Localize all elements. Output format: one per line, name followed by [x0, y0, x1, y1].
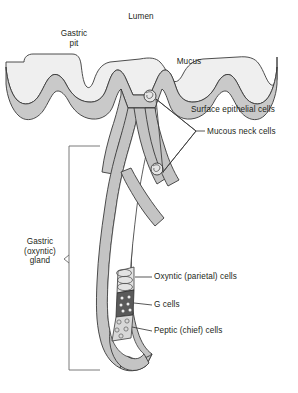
label-surface-epithelial-cells: Surface epithelial cells [191, 105, 295, 115]
label-oxyntic-parietal-cells: Oxyntic (parietal) cells [154, 272, 274, 282]
label-mucous-neck-cells: Mucous neck cells [207, 127, 297, 137]
mucous-neck-cell-marker-lower [151, 163, 163, 175]
label-mucus: Mucus [166, 57, 212, 67]
mucous-neck-cell-marker-upper [144, 90, 156, 102]
label-g-cells: G cells [154, 300, 234, 310]
oxyntic-cells-marker [117, 267, 135, 293]
label-peptic-chief-cells: Peptic (chief) cells [154, 326, 274, 336]
label-gastric-oxyntic-gland: Gastric (oxyntic) gland [12, 237, 68, 266]
label-gastric-pit: Gastric pit [46, 29, 102, 48]
g-cells-marker [116, 290, 134, 317]
label-lumen: Lumen [106, 12, 176, 22]
gastric-gland-bracket [64, 146, 100, 370]
